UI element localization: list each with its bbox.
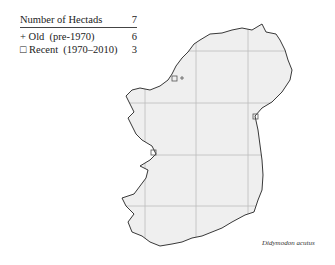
species-name: Didymodon acutus: [262, 239, 315, 247]
ireland-map: [0, 0, 335, 265]
land-fill: [122, 24, 292, 246]
